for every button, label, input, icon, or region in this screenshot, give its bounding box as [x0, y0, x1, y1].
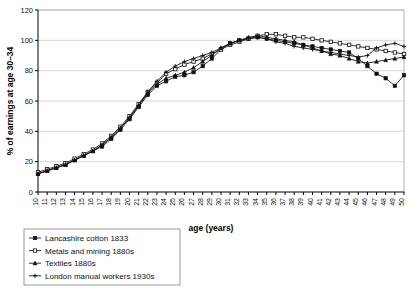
y-tick-label: 20: [25, 157, 33, 166]
x-tick-label: 33: [242, 198, 249, 206]
x-tick-label: 39: [297, 198, 304, 206]
series-0-point: [375, 72, 378, 75]
x-tick-label: 45: [352, 198, 359, 206]
legend-label-0: Lancashire cotton 1833: [45, 234, 129, 243]
x-tick-label: 36: [270, 198, 277, 206]
x-tick-label: 29: [206, 198, 213, 206]
x-tick-label: 21: [133, 198, 140, 206]
series-1-point: [274, 33, 277, 36]
legend-label-1: Metals and mining 1880s: [45, 247, 134, 256]
series-3-point: [393, 41, 397, 45]
x-tick-label: 22: [142, 198, 149, 206]
x-tick-label: 37: [279, 198, 286, 206]
series-0-point: [201, 64, 204, 67]
series-1-point: [366, 46, 369, 49]
x-tick-label: 28: [197, 198, 204, 206]
legend-label-2: Textiles 1880s: [45, 259, 96, 268]
series-0-point: [192, 70, 195, 73]
x-tick-label: 44: [343, 198, 350, 206]
x-tick-label: 48: [380, 198, 387, 206]
x-tick-label: 38: [288, 198, 295, 206]
x-tick-label: 43: [334, 198, 341, 206]
y-tick-label: 100: [20, 36, 33, 45]
y-tick-label: 60: [25, 97, 33, 106]
line-chart: 0204060801001201011121314151617181920212…: [0, 0, 411, 291]
x-tick-label: 12: [50, 198, 57, 206]
series-3-point: [402, 44, 406, 48]
x-tick-label: 13: [59, 198, 66, 206]
x-tick-label: 32: [233, 198, 240, 206]
x-tick-label: 23: [151, 198, 158, 206]
x-tick-label: 19: [114, 198, 121, 206]
series-1-point: [384, 49, 387, 52]
x-tick-label: 40: [307, 198, 314, 206]
x-tick-label: 42: [325, 198, 332, 206]
x-tick-label: 34: [252, 198, 259, 206]
x-tick-label: 11: [41, 198, 48, 205]
x-tick-label: 17: [96, 198, 103, 206]
legend-marker-1: [33, 249, 36, 252]
series-0-point: [402, 74, 405, 77]
legend-label-3: London manual workers 1930s: [45, 272, 154, 281]
x-axis-title: age (years): [189, 223, 234, 233]
series-1-point: [357, 45, 360, 48]
x-tick-label: 18: [105, 198, 112, 206]
x-tick-label: 10: [32, 198, 39, 206]
x-tick-label: 46: [361, 198, 368, 206]
series-1-point: [311, 37, 314, 40]
series-1-point: [338, 42, 341, 45]
series-0-point: [393, 84, 396, 87]
x-tick-label: 41: [316, 198, 323, 206]
x-tick-label: 49: [389, 198, 396, 206]
y-tick-label: 40: [25, 127, 33, 136]
series-0-point: [384, 77, 387, 80]
x-tick-label: 25: [169, 198, 176, 206]
x-tick-label: 26: [178, 198, 185, 206]
legend-marker-0: [33, 236, 36, 239]
series-1-point: [347, 43, 350, 46]
x-tick-label: 30: [215, 198, 222, 206]
series-1-point: [393, 51, 396, 54]
x-tick-label: 27: [188, 198, 195, 206]
series-1-point: [329, 40, 332, 43]
y-tick-label: 80: [25, 66, 33, 75]
series-3-point: [384, 43, 388, 47]
x-tick-label: 50: [398, 198, 405, 206]
x-tick-label: 15: [78, 198, 85, 206]
series-1-point: [320, 39, 323, 42]
series-1-point: [283, 34, 286, 37]
x-tick-label: 20: [124, 198, 131, 206]
x-tick-label: 24: [160, 198, 167, 206]
x-tick-label: 47: [371, 198, 378, 206]
y-tick-label: 120: [20, 6, 33, 15]
x-tick-label: 14: [69, 198, 76, 206]
x-tick-label: 35: [261, 198, 268, 206]
chart-container: 0204060801001201011121314151617181920212…: [0, 0, 411, 291]
x-tick-label: 31: [224, 198, 231, 206]
x-tick-label: 16: [87, 198, 94, 206]
y-axis-title: % of earnings at age 30–34: [5, 46, 15, 155]
y-tick-label: 0: [29, 188, 33, 197]
series-2-point: [192, 66, 196, 70]
series-1-point: [293, 36, 296, 39]
series-1-point: [302, 36, 305, 39]
